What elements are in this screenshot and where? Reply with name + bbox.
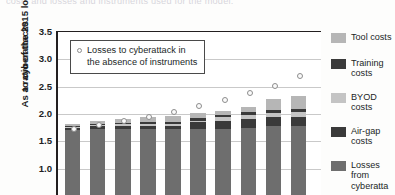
scatter-legend-line2: the absence of instruments — [87, 57, 197, 69]
bar-segment — [165, 122, 181, 124]
bar-segment — [291, 112, 307, 116]
legend-label: BYODcosts — [351, 92, 377, 113]
bar-segment — [266, 113, 282, 117]
bar-segment — [115, 129, 131, 195]
legend-label-line: Training — [351, 58, 384, 68]
legend-label-line: cyberatta — [351, 181, 388, 191]
chart-legend: Tool costsTrainingcostsBYODcostsAir-gapc… — [331, 32, 395, 192]
scatter-point — [146, 114, 152, 120]
bar-segment — [291, 117, 307, 126]
bar-segment — [215, 111, 231, 115]
legend-label-line: costs — [351, 102, 377, 112]
legend-item: Tool costs — [331, 32, 391, 43]
legend-swatch — [331, 33, 346, 43]
bar-segment — [215, 129, 231, 195]
bar-segment — [241, 119, 257, 128]
bar-segment — [241, 128, 257, 195]
bar-stack — [266, 31, 282, 195]
y-tick-label: 1.5 — [8, 135, 52, 146]
legend-swatch — [331, 161, 346, 171]
legend-item: Trainingcosts — [331, 58, 384, 79]
legend-swatch — [331, 93, 346, 103]
bar-segment — [140, 124, 156, 126]
legend-label: Air-gapcosts — [351, 126, 380, 147]
y-tick-label: 3.5 — [8, 26, 52, 37]
scatter-point — [222, 97, 228, 103]
bar-segment — [165, 129, 181, 195]
legend-label: Tool costs — [351, 32, 391, 42]
bar-segment — [165, 126, 181, 130]
bar-segment — [190, 122, 206, 129]
bar-segment — [215, 115, 231, 117]
y-tick-label: 2.5 — [8, 80, 52, 91]
bar-segment — [140, 126, 156, 130]
bar-segment — [266, 117, 282, 126]
y-tick-label: 1.0 — [8, 162, 52, 173]
legend-label-line: costs — [351, 68, 384, 78]
bar-segment — [215, 117, 231, 121]
bar-stack — [241, 31, 257, 195]
scatter-legend-line1: Losses to cyberattack in — [87, 45, 197, 57]
bar-segment — [140, 129, 156, 195]
scatter-point — [272, 83, 278, 89]
legend-label-line: Tool costs — [351, 32, 391, 42]
bar-segment — [241, 115, 257, 119]
bar-segment — [266, 110, 282, 113]
legend-label-line: from — [351, 170, 388, 180]
bar-segment — [90, 129, 106, 195]
bar-segment — [266, 126, 282, 195]
bar-segment — [241, 112, 257, 115]
legend-item: Lossesfromcyberatta — [331, 160, 388, 191]
legend-label-line: Losses — [351, 160, 388, 170]
legend-label-line: Air-gap — [351, 126, 380, 136]
legend-item: Air-gapcosts — [331, 126, 380, 147]
y-tick-label: 3.0 — [8, 53, 52, 64]
bar-segment — [115, 124, 131, 125]
bar-segment — [115, 126, 131, 130]
legend-swatch — [331, 127, 346, 137]
legend-label-line: costs — [351, 136, 380, 146]
bar-segment — [190, 129, 206, 195]
scatter-legend-box: Losses to cyberattack in the absence of … — [70, 40, 205, 74]
legend-label: Lossesfromcyberatta — [351, 160, 388, 191]
bar-segment — [215, 121, 231, 129]
bar-stack — [291, 31, 307, 195]
bar-segment — [165, 116, 181, 123]
bar-segment — [190, 121, 206, 123]
scatter-point — [247, 90, 253, 96]
figure-caption: costs and losses and instruments used fo… — [6, 0, 336, 6]
bar-stack — [215, 31, 231, 195]
bar-segment — [291, 96, 307, 109]
y-axis-ticks: 3.53.02.52.01.51.0 — [4, 0, 52, 195]
legend-label: Trainingcosts — [351, 58, 384, 79]
bar-segment — [266, 99, 282, 110]
bar-segment — [190, 113, 206, 118]
scatter-point — [71, 126, 77, 132]
y-tick-label: 2.0 — [8, 108, 52, 119]
scatter-point — [121, 118, 127, 124]
chart-figure: costs and losses and instruments used fo… — [0, 0, 395, 195]
bar-segment — [65, 130, 81, 195]
bar-segment — [291, 109, 307, 112]
legend-swatch — [331, 59, 346, 69]
plot-area: Losses to cyberattack in the absence of … — [56, 31, 321, 195]
legend-item: BYODcosts — [331, 92, 377, 113]
open-circle-icon — [77, 48, 82, 53]
legend-label-line: BYOD — [351, 92, 377, 102]
bar-segment — [291, 126, 307, 195]
scatter-point — [297, 73, 303, 79]
bar-segment — [190, 118, 206, 120]
bar-segment — [140, 122, 156, 124]
bar-segment — [165, 124, 181, 126]
bar-segment — [241, 107, 257, 112]
